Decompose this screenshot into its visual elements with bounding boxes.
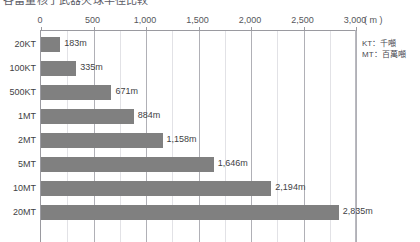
x-tick-label-3000: 3,000 <box>344 15 367 25</box>
bar-value-label-500KT: 671m <box>115 86 138 96</box>
bar-10MT <box>41 181 271 196</box>
bar-row: 671m <box>41 81 356 105</box>
y-category-label-20MT: 20MT <box>13 200 36 224</box>
figure-title-text: 各當量核子武器火球半徑比較 <box>3 0 149 7</box>
legend: KT：千噸MT：百萬噸 <box>362 38 418 60</box>
bar-row: 2,194m <box>41 177 356 201</box>
x-tick-mark-1000 <box>146 27 147 31</box>
y-category-label-2MT: 2MT <box>18 128 36 152</box>
bar-row: 1,158m <box>41 129 356 153</box>
x-tick-mark-500 <box>94 27 95 31</box>
bar-500KT <box>41 85 111 100</box>
bar-value-label-100KT: 335m <box>80 62 103 72</box>
y-category-label-100KT: 100KT <box>9 56 36 80</box>
y-category-label-10MT: 10MT <box>13 176 36 200</box>
y-category-label-5MT: 5MT <box>18 152 36 176</box>
bar-value-label-20KT: 183m <box>64 38 87 48</box>
bar-value-label-10MT: 2,194m <box>275 182 305 192</box>
x-tick-mark-0 <box>41 27 42 31</box>
x-tick-label-2500: 2,500 <box>291 15 314 25</box>
y-category-label-1MT: 1MT <box>18 104 36 128</box>
bar-value-label-5MT: 1,646m <box>218 158 248 168</box>
y-category-label-20KT: 20KT <box>14 32 36 56</box>
x-tick-mark-2000 <box>251 27 252 31</box>
x-tick-mark-1500 <box>199 27 200 31</box>
x-axis-unit-label: ( m ) <box>364 15 383 25</box>
bar-100KT <box>41 61 76 76</box>
x-tick-label-500: 500 <box>85 15 100 25</box>
chart-figure: 各當量核子武器火球半徑比較 05001,0001,5002,0002,5003,… <box>0 0 420 242</box>
bar-value-label-2MT: 1,158m <box>167 134 197 144</box>
plot-area: 183m335m671m884m1,158m1,646m2,194m2,835m <box>40 30 355 242</box>
x-tick-mark-3000 <box>356 27 357 31</box>
x-tick-label-0: 0 <box>37 15 42 25</box>
y-category-label-500KT: 500KT <box>9 80 36 104</box>
bar-20KT <box>41 37 60 52</box>
figure-title-clipped: 各當量核子武器火球半徑比較 <box>0 0 420 7</box>
bar-value-label-1MT: 884m <box>138 110 161 120</box>
legend-line-1: MT：百萬噸 <box>362 49 418 60</box>
x-tick-label-1500: 1,500 <box>186 15 209 25</box>
bar-row: 884m <box>41 105 356 129</box>
bar-row: 335m <box>41 57 356 81</box>
bar-value-label-20MT: 2,835m <box>343 206 373 216</box>
bar-1MT <box>41 109 134 124</box>
bar-20MT <box>41 205 339 220</box>
x-tick-mark-2500 <box>304 27 305 31</box>
bar-row: 2,835m <box>41 201 356 225</box>
legend-line-0: KT：千噸 <box>362 38 418 49</box>
plot-right-border <box>355 30 356 242</box>
x-axis-tick-labels: 05001,0001,5002,0002,5003,000( m ) <box>0 15 420 29</box>
x-tick-label-1000: 1,000 <box>134 15 157 25</box>
bar-5MT <box>41 157 214 172</box>
x-tick-label-2000: 2,000 <box>239 15 262 25</box>
y-axis-category-labels: 20KT100KT500KT1MT2MT5MT10MT20MT <box>0 30 40 242</box>
bar-row: 1,646m <box>41 153 356 177</box>
bar-2MT <box>41 133 163 148</box>
bar-row: 183m <box>41 33 356 57</box>
